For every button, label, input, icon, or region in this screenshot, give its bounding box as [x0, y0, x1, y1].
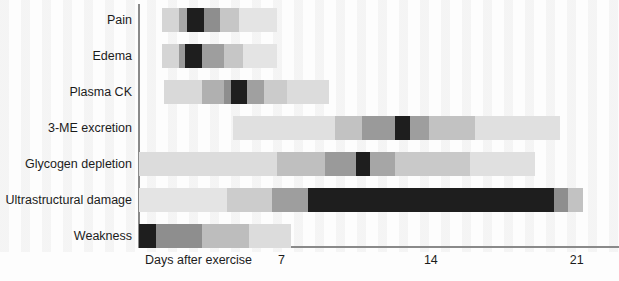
bar-segment	[139, 188, 227, 212]
chart-container: PainEdemaPlasma CK3-ME excretionGlycogen…	[0, 0, 619, 281]
bar-row	[139, 44, 619, 68]
bar-segment	[233, 116, 335, 140]
plot-area	[139, 4, 619, 248]
bar-segment	[287, 80, 329, 104]
bar-segment	[202, 80, 225, 104]
category-label-pain: Pain	[0, 8, 132, 32]
bar-segment	[395, 116, 410, 140]
bar-segment	[202, 44, 225, 68]
bar-segment	[204, 8, 221, 32]
bar-plasma-ck	[164, 80, 329, 104]
bar-segment	[308, 188, 554, 212]
bar-segment	[156, 224, 202, 248]
category-label-3-me-excretion: 3-ME excretion	[0, 116, 132, 140]
bar-glycogen-depletion	[139, 152, 535, 176]
bar-segment	[224, 44, 243, 68]
bar-segment	[162, 44, 179, 68]
bar-row	[139, 8, 619, 32]
bar-row	[139, 116, 619, 140]
category-label-ultrastructural-damage: Ultrastructural damage	[0, 188, 132, 212]
bar-segment	[429, 116, 475, 140]
bar-segment	[370, 152, 395, 176]
bar-segment	[185, 44, 202, 68]
bar-row	[139, 152, 619, 176]
bar-segment	[202, 224, 250, 248]
bar-segment	[239, 8, 277, 32]
bar-segment	[139, 152, 277, 176]
bar-segment	[247, 80, 264, 104]
bar-row	[139, 80, 619, 104]
bar-row	[139, 188, 619, 212]
bar-segment	[395, 152, 470, 176]
category-label-glycogen-depletion: Glycogen depletion	[0, 152, 132, 176]
bar-segment	[220, 8, 239, 32]
bar-segment	[227, 188, 273, 212]
bar-segment	[187, 8, 204, 32]
category-label-edema: Edema	[0, 44, 132, 68]
bar-segment	[272, 188, 307, 212]
bar-segment	[179, 8, 187, 32]
bar-segment	[277, 152, 325, 176]
bar-segment	[335, 116, 362, 140]
bar-segment	[325, 152, 356, 176]
bar-ultrastructural-damage	[139, 188, 583, 212]
bar-segment	[139, 224, 156, 248]
bar-3-me-excretion	[233, 116, 560, 140]
bar-segment	[164, 80, 202, 104]
x-tick-7: 7	[278, 252, 285, 268]
bar-pain	[162, 8, 277, 32]
bar-edema	[162, 44, 277, 68]
bar-segment	[362, 116, 395, 140]
category-label-plasma-ck: Plasma CK	[0, 80, 132, 104]
bar-segment	[249, 224, 291, 248]
bar-segment	[264, 80, 287, 104]
x-tick-21: 21	[570, 252, 584, 268]
bar-weakness	[139, 224, 291, 248]
bar-segment	[243, 44, 276, 68]
bar-segment	[410, 116, 429, 140]
x-axis-title: Days after exercise	[145, 252, 252, 268]
category-label-weakness: Weakness	[0, 224, 132, 248]
bar-segment	[554, 188, 569, 212]
bar-segment	[475, 116, 560, 140]
bar-segment	[356, 152, 371, 176]
bar-segment	[568, 188, 583, 212]
bar-segment	[231, 80, 248, 104]
bar-segment	[470, 152, 535, 176]
bar-segment	[162, 8, 179, 32]
x-tick-14: 14	[424, 252, 438, 268]
bar-row	[139, 224, 619, 248]
